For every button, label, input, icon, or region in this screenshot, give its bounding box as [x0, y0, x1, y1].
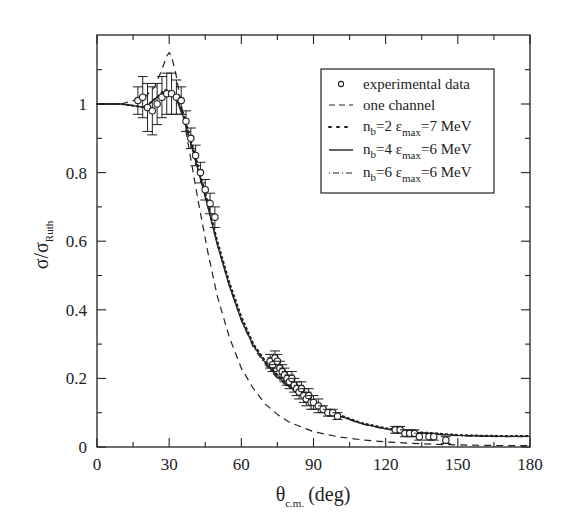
data-point [210, 207, 220, 228]
x-tick-label: 60 [233, 455, 250, 474]
svg-text:experimental data: experimental data [363, 76, 470, 92]
open-circle-icon [202, 187, 208, 193]
open-circle-icon [140, 94, 146, 100]
data-point [152, 83, 162, 124]
data-point [176, 87, 186, 114]
open-circle-icon [154, 101, 160, 107]
open-circle-icon [212, 214, 218, 220]
legend: experimental data one channel nb=2 εmax=… [321, 69, 494, 193]
y-tick-label: 0 [79, 438, 88, 457]
x-tick-label: 180 [517, 455, 543, 474]
open-circle-icon [149, 108, 155, 114]
open-circle-icon [183, 118, 189, 124]
y-tick-label: 0.8 [66, 164, 87, 183]
open-circle-icon [334, 413, 340, 419]
open-circle-icon [431, 434, 437, 440]
open-circle-icon [338, 81, 343, 86]
open-circle-icon [207, 200, 213, 206]
y-tick-label: 1 [79, 95, 88, 114]
x-tick-label: 150 [445, 455, 471, 474]
data-point [138, 77, 148, 118]
open-circle-icon [416, 434, 422, 440]
x-tick-label: 120 [373, 455, 399, 474]
open-circle-icon [178, 97, 184, 103]
data-point [205, 193, 215, 214]
open-circle-icon [188, 135, 194, 141]
open-circle-icon [192, 152, 198, 158]
chart: 030609012015018000.20.40.60.81 σ/σRuth θ… [0, 0, 572, 521]
y-axis-title: σ/σRuth [30, 220, 55, 269]
y-tick-label: 0.4 [66, 301, 88, 320]
y-tick-label: 0.2 [66, 369, 87, 388]
x-axis-title: θc.m.(deg) [276, 483, 351, 509]
open-circle-icon [197, 169, 203, 175]
data-point [147, 87, 157, 135]
x-tick-label: 0 [93, 455, 102, 474]
svg-text:one channel: one channel [363, 97, 435, 113]
data-point [441, 437, 451, 444]
y-tick-label: 0.6 [66, 232, 87, 251]
x-tick-label: 30 [161, 455, 178, 474]
open-circle-icon [443, 437, 449, 443]
x-tick-label: 90 [305, 455, 322, 474]
